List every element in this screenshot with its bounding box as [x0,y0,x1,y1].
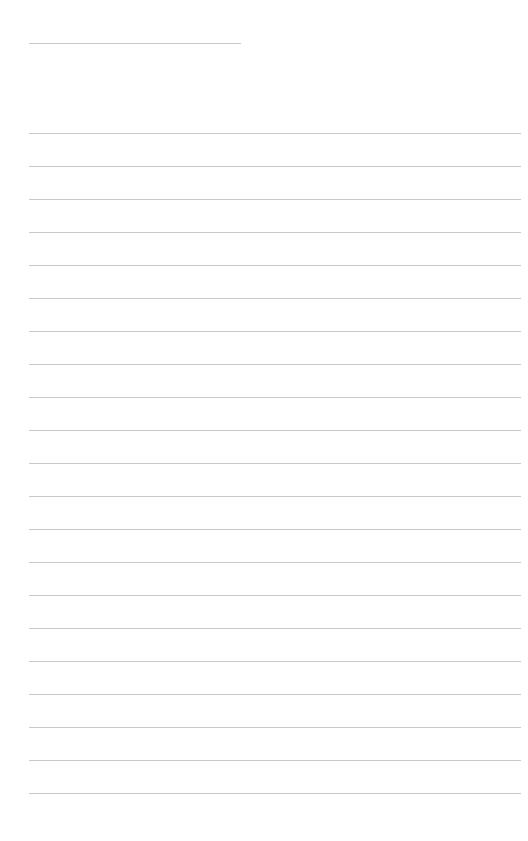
ruled-line [29,562,521,563]
ruled-line [29,661,521,662]
ruled-line [29,166,521,167]
ruled-line [29,760,521,761]
ruled-line [29,628,521,629]
header-line [29,43,241,44]
lined-paper-page [0,0,528,841]
ruled-line [29,727,521,728]
ruled-line [29,430,521,431]
ruled-line [29,232,521,233]
ruled-line [29,694,521,695]
ruled-line [29,496,521,497]
ruled-line [29,265,521,266]
ruled-line [29,595,521,596]
ruled-line [29,529,521,530]
ruled-line [29,364,521,365]
ruled-line [29,298,521,299]
ruled-line [29,331,521,332]
ruled-line [29,793,521,794]
ruled-line [29,133,521,134]
ruled-line [29,397,521,398]
ruled-line [29,199,521,200]
ruled-line [29,463,521,464]
